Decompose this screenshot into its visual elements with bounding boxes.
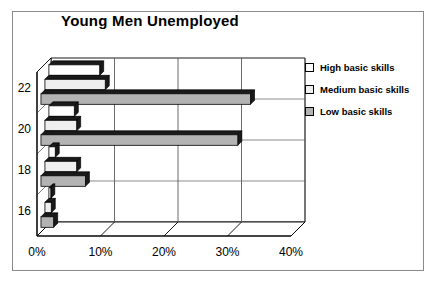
x-axis-tick-label: 20% xyxy=(152,245,176,259)
legend-swatch-medium xyxy=(305,85,314,94)
legend-swatch-high xyxy=(305,63,314,72)
y-axis-tick-label: 18 xyxy=(18,163,32,177)
x-axis-tick-label: 0% xyxy=(28,245,46,259)
y-axis-tick-label: 16 xyxy=(18,204,32,218)
legend-label-high: High basic skills xyxy=(320,62,394,73)
legend-swatch-low xyxy=(305,107,314,116)
chart-plot-area: 0%10%20%30%40%22201816 xyxy=(0,0,437,285)
x-axis-tick-label: 40% xyxy=(279,245,303,259)
legend-item-high: High basic skills xyxy=(305,62,431,73)
legend-item-medium: Medium basic skills xyxy=(305,84,431,95)
chart-legend: High basic skills Medium basic skills Lo… xyxy=(305,62,431,128)
x-axis-tick-label: 30% xyxy=(215,245,239,259)
legend-item-low: Low basic skills xyxy=(305,106,431,117)
legend-label-low: Low basic skills xyxy=(320,106,392,117)
legend-label-medium: Medium basic skills xyxy=(320,84,409,95)
x-axis-tick-label: 10% xyxy=(88,245,112,259)
y-axis-tick-label: 20 xyxy=(18,122,32,136)
y-axis-tick-label: 22 xyxy=(18,81,32,95)
